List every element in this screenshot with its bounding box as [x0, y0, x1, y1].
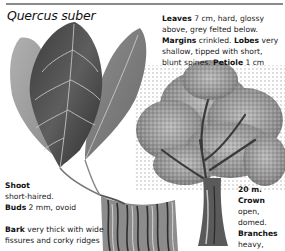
bark-description: Bark very thick with wide fissures and c… [5, 224, 105, 246]
tree-height: 20 m. [238, 185, 262, 194]
text-margins: crinkled. [196, 36, 233, 45]
text-crown: open, domed. [238, 207, 267, 227]
label-shoot: Shoot [5, 181, 30, 190]
label-margins: Margins [162, 36, 196, 45]
label-petiole: Petiole [213, 58, 243, 67]
text-branches: heavy, twisted. [238, 240, 268, 251]
label-bark: Bark [5, 225, 25, 234]
leaves-description: Leaves 7 cm, hard, glossy above, grey fe… [162, 13, 284, 68]
tree-description: 20 m.Crown open, domed. Branches heavy, … [238, 184, 285, 251]
label-buds: Buds [5, 203, 26, 212]
text-petiole: 1 cm [243, 58, 264, 67]
label-lobes: Lobes [234, 36, 259, 45]
label-branches: Branches [238, 229, 278, 238]
label-leaves: Leaves [162, 14, 192, 23]
label-crown: Crown [238, 196, 265, 205]
text-buds: 2 mm, ovoid [26, 203, 76, 212]
shoot-description: Shootshort-haired.Buds 2 mm, ovoid [5, 180, 90, 213]
text-shoot: short-haired. [5, 192, 54, 201]
